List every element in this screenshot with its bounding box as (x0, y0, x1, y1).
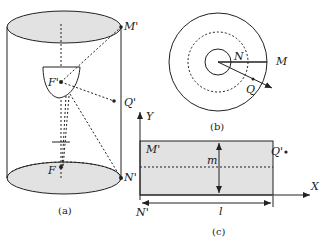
caption-b: (b) (210, 121, 224, 132)
point-F-prime (59, 80, 63, 84)
label-X: X (310, 180, 320, 193)
point-N-prime (119, 176, 123, 180)
label-M-prime-c: M' (145, 143, 160, 156)
label-N: N (233, 50, 244, 63)
ray-through-Q (218, 62, 272, 88)
panel-b-top-view: N M Q (b) (169, 13, 288, 132)
point-Q-prime (112, 99, 116, 103)
label-Q-prime: Q' (124, 96, 136, 109)
label-Q-prime-c: Q' (271, 145, 283, 158)
label-M-prime: M' (123, 20, 138, 33)
label-l: l (219, 205, 223, 218)
caption-a: (a) (58, 205, 72, 216)
label-F: F (47, 164, 56, 177)
label-Y: Y (146, 110, 155, 123)
point-Q-prime-c (284, 150, 287, 153)
label-N-prime: N' (123, 171, 137, 184)
label-M: M (275, 55, 288, 68)
point-Q (252, 78, 255, 81)
label-Q: Q (246, 83, 255, 96)
point-F (59, 165, 63, 169)
panel-a-cylinder: M' F' Q' F N' (a) (7, 11, 138, 216)
caption-c: (c) (212, 226, 226, 237)
label-N-prime-c: N' (135, 206, 149, 219)
figure-canvas: M' F' Q' F N' (a) N M Q (b) Y X M' m Q' … (0, 0, 326, 244)
point-M-prime (119, 25, 123, 29)
label-F-prime: F' (47, 76, 59, 89)
label-m: m (207, 154, 217, 167)
panel-c-unrolled: Y X M' m Q' N' l (c) (135, 110, 320, 237)
cylinder-top (7, 11, 121, 43)
